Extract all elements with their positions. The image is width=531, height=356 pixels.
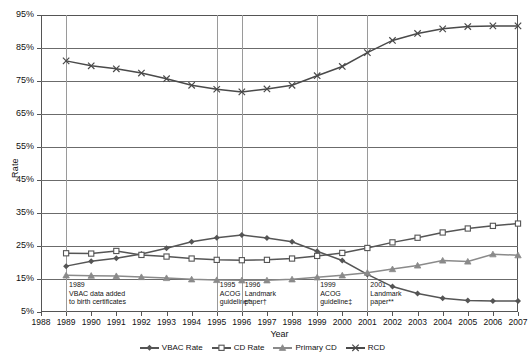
series-rcd xyxy=(63,23,521,95)
data-point-square xyxy=(415,235,420,240)
data-point-square xyxy=(114,248,119,253)
legend-label: Primary CD xyxy=(295,343,336,352)
series-vbac-rate xyxy=(63,232,521,304)
data-point-square xyxy=(264,257,269,262)
data-point-square xyxy=(490,223,495,228)
data-point-square xyxy=(289,256,294,261)
data-point-plus xyxy=(440,295,446,301)
data-point-plus xyxy=(214,235,220,241)
legend-label: VBAC Rate xyxy=(162,343,203,352)
data-point-plus xyxy=(515,298,521,304)
data-point-square xyxy=(390,240,395,245)
data-point-square xyxy=(340,250,345,255)
legend-item-rcd[interactable]: RCD xyxy=(346,343,385,352)
data-point-cross xyxy=(314,73,320,79)
data-point-cross xyxy=(339,63,345,69)
data-point-plus xyxy=(339,258,345,264)
data-point-square xyxy=(64,251,69,256)
data-point-plus xyxy=(146,345,152,351)
legend-label: CD Rate xyxy=(234,343,265,352)
data-point-cross xyxy=(352,345,358,351)
data-point-square xyxy=(164,254,169,259)
data-point-plus xyxy=(415,291,421,297)
legend-marker-cross-icon xyxy=(346,343,365,352)
data-point-plus xyxy=(88,258,94,264)
data-point-square xyxy=(214,257,219,262)
data-point-plus xyxy=(289,239,295,245)
data-point-plus xyxy=(465,297,471,303)
data-point-plus xyxy=(389,284,395,290)
data-point-plus xyxy=(239,232,245,238)
data-point-square xyxy=(89,251,94,256)
data-point-plus xyxy=(490,298,496,304)
data-point-square xyxy=(219,345,224,350)
data-point-square xyxy=(440,230,445,235)
data-point-square xyxy=(515,221,520,226)
legend-marker-triangle-icon xyxy=(273,343,292,352)
legend-item-primary-cd[interactable]: Primary CD xyxy=(273,343,336,352)
legend-marker-plus-icon xyxy=(140,343,159,352)
data-point-plus xyxy=(63,263,69,269)
data-point-cross xyxy=(364,49,370,55)
data-point-triangle xyxy=(280,345,286,351)
x-axis-title: Year xyxy=(41,329,518,339)
data-point-plus xyxy=(264,235,270,241)
legend-item-cd-rate[interactable]: CD Rate xyxy=(212,343,265,352)
data-point-square xyxy=(189,256,194,261)
data-point-plus xyxy=(113,255,119,261)
data-point-square xyxy=(239,258,244,263)
data-point-square xyxy=(315,253,320,258)
data-point-square xyxy=(139,252,144,257)
legend-label: RCD xyxy=(368,343,385,352)
chart-legend: VBAC RateCD RatePrimary CDRCD xyxy=(0,343,525,352)
data-point-square xyxy=(465,226,470,231)
data-point-square xyxy=(365,245,370,250)
data-point-plus xyxy=(164,245,170,251)
data-point-plus xyxy=(189,239,195,245)
legend-marker-square-icon xyxy=(212,343,231,352)
legend-item-vbac-rate[interactable]: VBAC Rate xyxy=(140,343,203,352)
series-line xyxy=(66,235,518,301)
series-line xyxy=(66,26,518,92)
